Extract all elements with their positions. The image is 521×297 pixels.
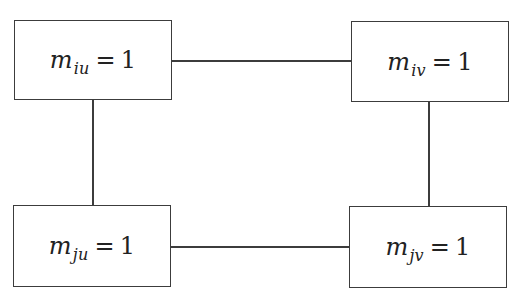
edge-iu-iv	[171, 60, 351, 62]
variable-symbol: m	[49, 232, 72, 260]
equals-sign: =	[430, 233, 450, 261]
equals-sign: =	[96, 46, 116, 74]
variable-subscript: ju	[73, 245, 89, 264]
diagram-canvas: miu=1 miv=1 mju=1 mjv=1	[0, 0, 521, 297]
node-label: mju=1	[49, 232, 135, 260]
edge-iu-ju	[92, 99, 94, 205]
variable-subscript: jv	[409, 246, 423, 265]
node-m-iv: miv=1	[351, 21, 509, 102]
variable-symbol: m	[50, 46, 73, 74]
node-value: 1	[455, 233, 470, 261]
node-value: 1	[121, 46, 136, 74]
node-value: 1	[120, 232, 135, 260]
node-m-jv: mjv=1	[349, 206, 507, 288]
edge-ju-jv	[170, 246, 349, 248]
node-m-ju: mju=1	[13, 205, 171, 287]
variable-subscript: iu	[74, 59, 90, 78]
variable-subscript: iv	[411, 61, 426, 80]
node-label: mjv=1	[385, 233, 470, 261]
node-value: 1	[457, 48, 472, 76]
node-label: miv=1	[387, 48, 472, 76]
equals-sign: =	[94, 232, 114, 260]
edge-iv-jv	[428, 101, 430, 206]
variable-symbol: m	[387, 48, 410, 76]
equals-sign: =	[432, 48, 452, 76]
variable-symbol: m	[385, 233, 408, 261]
node-label: miu=1	[50, 46, 137, 74]
node-m-iu: miu=1	[14, 20, 172, 100]
